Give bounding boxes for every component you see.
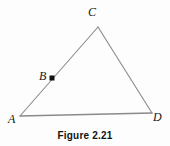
vertex-label-b: B [39,70,46,82]
segment-a-c [20,27,98,116]
segment-a-d [20,113,152,116]
vertex-label-a: A [8,113,15,125]
segment-c-d [98,27,152,113]
vertex-label-d: D [153,111,162,123]
point-b-marker [50,76,55,81]
vertex-label-c: C [88,6,96,18]
figure-container: C B A D Figure 2.21 [0,0,170,146]
figure-caption: Figure 2.21 [0,130,170,141]
triangle-diagram [0,0,170,128]
